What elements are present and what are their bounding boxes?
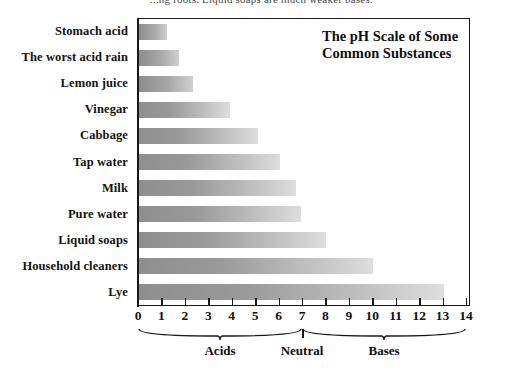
bar bbox=[139, 24, 167, 40]
bar bbox=[139, 258, 373, 274]
region-label: Bases bbox=[368, 343, 399, 359]
x-axis-tick-label: 10 bbox=[366, 308, 380, 324]
x-axis-tick-label: 0 bbox=[135, 308, 142, 324]
x-axis-tick bbox=[138, 298, 139, 306]
bar bbox=[139, 180, 296, 196]
bar-row bbox=[139, 253, 469, 279]
x-axis-tick bbox=[279, 298, 280, 306]
x-axis-tick bbox=[466, 298, 467, 306]
bar bbox=[139, 50, 179, 66]
x-axis-tick bbox=[302, 298, 303, 306]
category-label: Lye bbox=[0, 280, 134, 306]
category-label: Vinegar bbox=[0, 97, 134, 123]
x-axis-tick-label: 14 bbox=[459, 308, 473, 324]
bar-row bbox=[139, 149, 469, 175]
bar bbox=[139, 206, 301, 222]
bar bbox=[139, 232, 326, 248]
x-axis-tick-label: 8 bbox=[322, 308, 329, 324]
region-label: Acids bbox=[204, 343, 235, 359]
x-axis-tick bbox=[372, 298, 373, 306]
bar-row bbox=[139, 201, 469, 227]
x-axis-tick bbox=[208, 298, 209, 306]
x-axis-tick bbox=[419, 298, 420, 306]
x-axis-tick-label: 4 bbox=[228, 308, 235, 324]
x-axis-tick-label: 2 bbox=[181, 308, 188, 324]
category-label: Liquid soaps bbox=[0, 228, 134, 254]
bar bbox=[139, 128, 258, 144]
x-axis-tick-label: 3 bbox=[205, 308, 212, 324]
x-axis-tick bbox=[185, 298, 186, 306]
bar-row bbox=[139, 71, 469, 97]
x-axis-tick bbox=[349, 298, 350, 306]
region-annotations: AcidsNeutralBases bbox=[138, 329, 465, 369]
x-axis-tick bbox=[325, 298, 326, 306]
category-label: The worst acid rain bbox=[0, 44, 134, 70]
x-axis-tick bbox=[232, 298, 233, 306]
bar bbox=[139, 76, 193, 92]
bar-row bbox=[139, 175, 469, 201]
bar-row bbox=[139, 227, 469, 253]
category-label: Tap water bbox=[0, 149, 134, 175]
category-label: Stomach acid bbox=[0, 18, 134, 44]
bar-row bbox=[139, 123, 469, 149]
chart-title-line-1: The pH Scale of Some bbox=[322, 28, 502, 45]
bar-row bbox=[139, 97, 469, 123]
x-axis-tick bbox=[443, 298, 444, 306]
category-label: Pure water bbox=[0, 201, 134, 227]
x-axis-tick-label: 6 bbox=[275, 308, 282, 324]
x-axis-tick-label: 12 bbox=[412, 308, 426, 324]
category-label-column: Stomach acidThe worst acid rainLemon jui… bbox=[0, 18, 134, 306]
brace-acids bbox=[138, 329, 302, 340]
x-axis-tick-label: 13 bbox=[436, 308, 450, 324]
x-axis-tick bbox=[161, 298, 162, 306]
bar bbox=[139, 154, 280, 170]
x-axis-tick-label: 9 bbox=[345, 308, 352, 324]
x-axis-tick-label: 11 bbox=[389, 308, 402, 324]
ph-scale-figure: Stomach acidThe worst acid rainLemon jui… bbox=[0, 0, 513, 369]
x-axis-tick-label: 1 bbox=[158, 308, 165, 324]
chart-title: The pH Scale of Some Common Substances bbox=[322, 28, 502, 62]
chart-title-line-2: Common Substances bbox=[322, 45, 502, 62]
x-axis-tick bbox=[396, 298, 397, 306]
category-label: Cabbage bbox=[0, 123, 134, 149]
x-axis-tick bbox=[255, 298, 256, 306]
category-label: Lemon juice bbox=[0, 70, 134, 96]
x-axis-tick-label: 7 bbox=[299, 308, 306, 324]
x-axis-tick-label: 5 bbox=[252, 308, 259, 324]
category-label: Household cleaners bbox=[0, 254, 134, 280]
region-label: Neutral bbox=[281, 343, 324, 359]
category-label: Milk bbox=[0, 175, 134, 201]
brace-bases bbox=[302, 329, 466, 340]
bar bbox=[139, 102, 230, 118]
